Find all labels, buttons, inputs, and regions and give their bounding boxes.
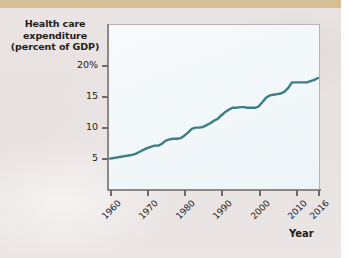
y-tick-label-5: 5 (38, 152, 98, 163)
x-tick-label-1990: 1990 (206, 198, 234, 226)
y-tick-mark-15 (102, 96, 108, 98)
x-tick-mark-2016 (318, 190, 320, 196)
top-decorative-band (0, 0, 341, 8)
y-axis-title: Health care expenditure (percent of GDP) (6, 18, 104, 53)
plot-background (109, 25, 319, 189)
figure-container: Health care expenditure (percent of GDP)… (0, 0, 349, 258)
x-tick-mark-2010 (296, 190, 298, 196)
x-tick-mark-1990 (221, 190, 223, 196)
y-axis-title-line-3: (percent of GDP) (6, 41, 104, 53)
x-tick-label-2000: 2000 (244, 198, 272, 226)
x-tick-mark-1960 (110, 190, 112, 196)
y-axis-title-line-2: expenditure (6, 30, 104, 42)
x-axis-line (107, 189, 321, 191)
x-tick-label-1980: 1980 (169, 198, 197, 226)
x-tick-mark-1980 (184, 190, 186, 196)
y-tick-mark-5 (102, 158, 108, 160)
x-tick-mark-2000 (259, 190, 261, 196)
y-tick-mark-20 (102, 65, 108, 67)
x-axis-title: Year (289, 228, 314, 239)
y-tick-label-10: 10 (38, 121, 98, 132)
x-tick-label-1960: 1960 (95, 198, 123, 226)
plot-area (108, 24, 320, 190)
y-axis-line (107, 24, 109, 191)
y-axis-title-line-1: Health care (6, 18, 104, 30)
y-tick-mark-10 (102, 127, 108, 129)
x-tick-label-1970: 1970 (132, 198, 160, 226)
right-page-margin (341, 0, 349, 258)
x-tick-mark-1970 (147, 190, 149, 196)
y-tick-label-15: 15 (38, 90, 98, 101)
y-tick-label-20: 20% (38, 59, 98, 70)
